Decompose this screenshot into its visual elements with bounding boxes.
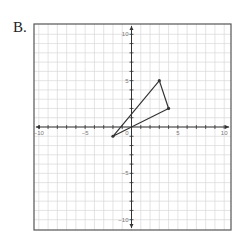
x-tick-label: −10 xyxy=(34,130,45,136)
vertex-point xyxy=(158,79,161,82)
x-tick-label: 5 xyxy=(176,130,180,136)
vertex-point xyxy=(167,107,170,110)
y-axis-arrow-up-icon xyxy=(130,26,134,30)
x-axis-arrow-left-icon xyxy=(36,125,40,129)
x-tick-label: 10 xyxy=(221,130,228,136)
coordinate-plane: −10−5510105−5−100 xyxy=(0,0,241,238)
vertex-point xyxy=(111,135,114,138)
y-axis-arrow-down-icon xyxy=(130,224,134,228)
y-tick-label: −10 xyxy=(118,217,129,223)
y-tick-label: 10 xyxy=(122,31,129,37)
x-tick-label: −5 xyxy=(82,130,90,136)
y-tick-label: −5 xyxy=(122,170,130,176)
x-axis-arrow-right-icon xyxy=(225,125,229,129)
origin-label: 0 xyxy=(125,130,129,136)
